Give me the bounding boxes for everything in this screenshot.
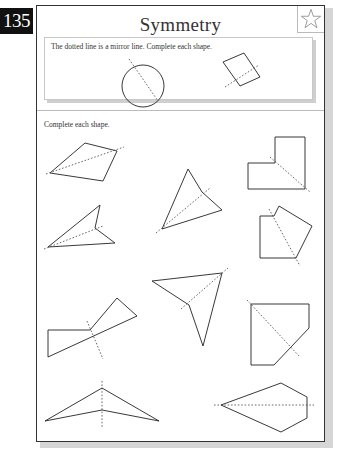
shapes-canvas (0, 0, 341, 452)
bowtie-left-mirror-line (87, 321, 103, 359)
triangle-middle-lower-shape (152, 273, 222, 346)
kite-bottom-right-shape (221, 383, 307, 432)
quadrilateral-kite-shape (50, 143, 117, 181)
pentagon-right-shape (260, 206, 312, 258)
pentagon-right-mirror-line (269, 209, 300, 266)
arrowhead-left-shape (48, 205, 115, 247)
l-shape-shape (248, 137, 305, 189)
hexagon-right-mirror-line (247, 300, 300, 357)
l-shape-mirror-line (270, 157, 310, 192)
rectangle-mirror-line (225, 65, 259, 87)
bowtie-left-shape (48, 298, 137, 357)
triangle-top-middle-mirror-line (156, 188, 210, 233)
triangle-top-middle-shape (162, 169, 222, 229)
circle-shape (122, 65, 164, 107)
triangle-middle-lower-mirror-line (181, 268, 228, 309)
rectangle-shape (223, 53, 260, 86)
